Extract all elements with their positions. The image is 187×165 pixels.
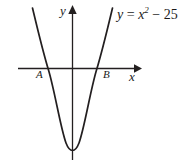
equation-equals: = — [123, 7, 138, 22]
point-label-a: A — [36, 69, 43, 80]
equation-constant-term: − 25 — [149, 7, 178, 22]
x-axis-arrowhead-icon — [134, 64, 142, 72]
y-axis-label: y — [60, 4, 66, 17]
graph-canvas — [0, 0, 187, 165]
x-axis-label: x — [129, 70, 135, 83]
y-axis — [68, 5, 76, 160]
equation-label: y = x2 − 25 — [117, 6, 178, 22]
parabola-figure: y = x2 − 25 y x A B — [0, 0, 187, 165]
point-label-b: B — [103, 69, 110, 80]
y-axis-arrowhead-icon — [68, 5, 76, 14]
